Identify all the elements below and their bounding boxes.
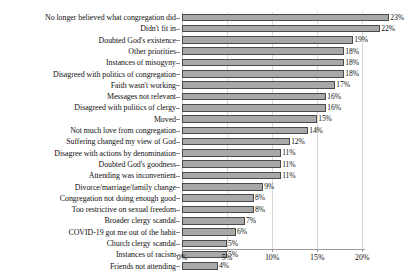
bar [182,172,281,180]
bar-value-label: 18% [345,46,359,57]
bar [182,240,227,248]
category-label: Instances of misogyny [0,57,176,68]
category-tick-mark [176,187,180,188]
bar-row: 12% [182,136,365,147]
bar-row: 6% [182,227,365,238]
bar-value-label: 5% [228,238,238,249]
bar-value-label: 11% [282,159,295,170]
bar [182,70,344,78]
bar-row: 18% [182,57,365,68]
x-axis-line [182,249,365,250]
bar-value-label: 8% [255,204,265,215]
x-tick-mark [182,249,183,252]
category-tick-mark [176,210,180,211]
category-tick-mark [176,119,180,120]
x-tick-mark [362,249,363,252]
bar [182,262,218,270]
bar-value-label: 8% [255,192,265,203]
category-axis-labels: No longer believed what congregation did… [0,12,176,249]
bar [182,127,308,135]
category-tick-mark [176,176,180,177]
bar [182,138,290,146]
x-tick-label: 5% [222,253,233,263]
bar-row: 18% [182,46,365,57]
category-tick-mark [176,153,180,154]
x-tick-label: 20% [355,253,369,263]
category-tick-mark [176,29,180,30]
category-label: Doubted God's goodness [0,159,176,170]
category-label: Too restrictive on sexual freedom [0,204,176,215]
category-tick-mark [176,74,180,75]
category-tick-mark [176,142,180,143]
bar-value-label: 18% [345,68,359,79]
bar-value-label: 12% [291,136,305,147]
category-label: Disagree with actions by denomination [0,148,176,159]
category-label: Other priorities [0,46,176,57]
category-label: Not much love from congregation [0,125,176,136]
bar [182,93,326,101]
bar [182,251,227,259]
bar-row: 11% [182,170,365,181]
bar-row: 22% [182,23,365,34]
category-tick-mark [176,244,180,245]
bar [182,149,281,157]
bar-row: 15% [182,114,365,125]
bar-row: 8% [182,193,365,204]
category-tick-mark [176,108,180,109]
bar [182,206,254,214]
bar-value-label: 7% [246,215,256,226]
bar-row: 16% [182,102,365,113]
x-tick-mark [227,249,228,252]
bar-row: 11% [182,159,365,170]
bar [182,115,317,123]
category-label: Broader clergy scandal [0,215,176,226]
bar [182,217,245,225]
bar-value-label: 11% [282,170,295,181]
bar-value-label: 15% [318,113,332,124]
category-tick-mark [176,266,180,267]
category-label: Didn't fit in [0,23,176,34]
category-label: Moved [0,114,176,125]
bar-value-label: 22% [381,23,395,34]
category-label: Disagreed with politics of congregation [0,69,176,80]
bar-value-label: 9% [264,181,274,192]
bar [182,36,353,44]
bar-row: 7% [182,215,365,226]
bar-value-label: 16% [327,102,341,113]
bar-value-label: 23% [390,12,404,23]
x-tick-label: 10% [265,253,279,263]
category-tick-mark [176,40,180,41]
bar-rows: 23%22%19%18%18%18%17%16%16%15%14%12%11%1… [182,12,365,249]
bar-row: 9% [182,182,365,193]
bar-value-label: 6% [237,226,247,237]
bar [182,183,263,191]
bar-row: 11% [182,148,365,159]
bar [182,47,344,55]
category-label: COVID-19 got me out of the habit [0,227,176,238]
category-tick-mark [176,165,180,166]
bar [182,194,254,202]
bar [182,59,344,67]
category-label: Messages not relevant [0,91,176,102]
bar [182,228,236,236]
x-tick-label: 15% [310,253,324,263]
category-tick-mark [176,255,180,256]
category-label: No longer believed what congregation did [0,12,176,23]
category-label: Friends not attending [0,261,176,272]
bar [182,25,380,33]
category-label: Divorce/marriage/family change [0,182,176,193]
category-tick-mark [176,52,180,53]
bar-value-label: 14% [309,125,323,136]
bar-row: 8% [182,204,365,215]
x-tick-mark [272,249,273,252]
category-tick-mark [176,198,180,199]
category-label: Church clergy scandal [0,238,176,249]
category-label: Doubted God's existence [0,35,176,46]
bar [182,81,335,89]
bar-value-label: 11% [282,147,295,158]
category-tick-mark [176,221,180,222]
category-tick-mark [176,18,180,19]
bar-row: 23% [182,12,365,23]
category-label: Congregation not doing enough good [0,193,176,204]
category-label: Faith wasn't working [0,80,176,91]
